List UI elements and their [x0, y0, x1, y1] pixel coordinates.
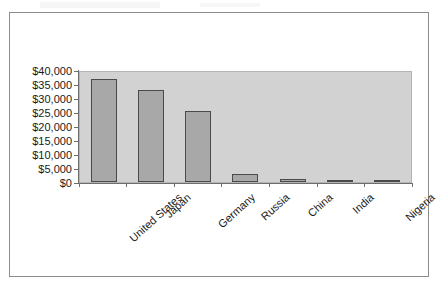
x-axis-tick-labels: United States Japan Germany Russia China… — [0, 0, 441, 290]
x-tick-label-germany: Germany — [216, 191, 258, 230]
x-tick-label-china: China — [305, 191, 334, 219]
x-tick-label-nigeria: Nigeria — [403, 191, 437, 223]
x-tick-label-russia: Russia — [259, 191, 292, 222]
x-tick-label-india: India — [350, 191, 376, 216]
chart-figure: $40,000 $35,000 $30,000 $25,000 $20,000 … — [0, 0, 441, 290]
